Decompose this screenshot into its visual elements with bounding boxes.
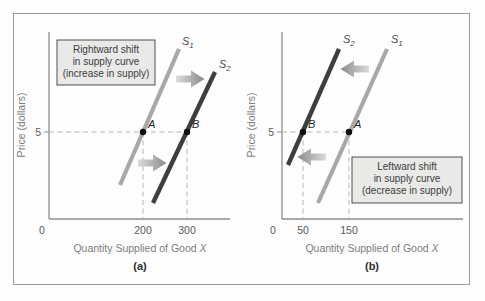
x-tick-200: 200 [134, 224, 152, 236]
shift-left-arrow-lower [298, 149, 327, 166]
price-tick-label: 5 [268, 126, 274, 138]
price-tick-label: 5 [35, 126, 41, 138]
note-line-3: (decrease in supply) [362, 185, 452, 196]
point-b-label: B [308, 118, 315, 130]
x-tick-150: 150 [340, 224, 358, 236]
point-a-dot [346, 129, 352, 135]
s1-curve-label: S1 [182, 35, 194, 50]
point-a-label: A [147, 118, 155, 130]
s2-curve-label: S2 [219, 58, 231, 73]
note-line-1: Leftward shift [377, 161, 437, 172]
x-axis-title: Quantity Supplied of GoodX [73, 242, 207, 254]
s2-curve-label: S2 [343, 33, 355, 48]
shift-left-arrow-upper [341, 61, 370, 78]
x-tick-300: 300 [178, 224, 196, 236]
shift-right-arrow-upper [176, 71, 205, 88]
panel-a-plot: A B S1 S2 Rightward shift in supply curv… [14, 13, 242, 285]
panel-caption: (a) [133, 260, 147, 272]
point-b-dot [300, 129, 306, 135]
shift-right-arrow-lower [138, 155, 167, 172]
panel-caption: (b) [365, 260, 379, 272]
s1-curve-label: S1 [391, 33, 403, 48]
origin-tick-label: 0 [39, 224, 45, 236]
s2-supply-curve [288, 49, 339, 165]
point-b-label: B [192, 118, 199, 130]
note-line-3: (increase in supply) [63, 68, 150, 79]
note-line-1: Rightward shift [73, 44, 139, 55]
y-axis-title: Price (dollars) [245, 93, 257, 158]
note-line-2: in supply curve [73, 56, 140, 67]
y-axis-title: Price (dollars) [15, 93, 27, 158]
panel-b-plot: B A S2 S1 Leftward shift in supply curve… [242, 13, 470, 285]
note-line-2: in supply curve [374, 173, 441, 184]
x-tick-50: 50 [297, 224, 309, 236]
panel-a: A B S1 S2 Rightward shift in supply curv… [14, 13, 242, 285]
panel-b: B A S2 S1 Leftward shift in supply curve… [242, 13, 470, 285]
origin-tick-label: 0 [270, 224, 276, 236]
point-a-dot [140, 129, 146, 135]
x-axis-title: Quantity Supplied of GoodX [305, 242, 439, 254]
point-a-label: A [353, 118, 361, 130]
point-b-dot [184, 129, 190, 135]
